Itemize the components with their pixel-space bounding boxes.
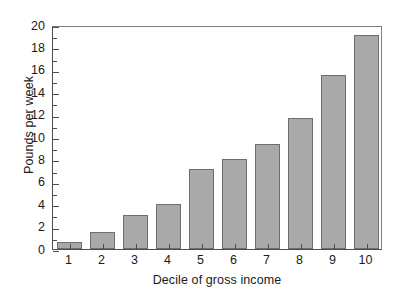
y-tick-major xyxy=(53,251,59,252)
bar xyxy=(288,118,314,249)
y-axis-tick-labels: 02468101214161820 xyxy=(21,0,45,297)
y-tick-minor xyxy=(53,217,57,218)
bar xyxy=(222,159,248,249)
y-tick-major xyxy=(53,184,59,185)
bar xyxy=(255,144,281,249)
y-tick-major xyxy=(53,229,59,230)
y-tick-major xyxy=(53,49,59,50)
y-tick-minor xyxy=(53,83,57,84)
plot-area xyxy=(52,26,382,250)
y-tick-label: 2 xyxy=(23,221,45,234)
x-tick xyxy=(334,244,335,249)
y-tick-major xyxy=(53,161,59,162)
y-tick-major xyxy=(53,117,59,118)
x-tick xyxy=(268,244,269,249)
x-tick xyxy=(301,244,302,249)
x-axis-tick-labels: 12345678910 xyxy=(52,254,382,272)
y-tick-label: 16 xyxy=(23,64,45,77)
x-tick xyxy=(202,244,203,249)
x-tick xyxy=(136,244,137,249)
y-tick-major xyxy=(53,94,59,95)
y-tick-major xyxy=(53,72,59,73)
x-axis-title: Decile of gross income xyxy=(52,273,382,287)
y-tick-label: 4 xyxy=(23,199,45,212)
bar-chart-figure: Pounds per week 02468101214161820 123456… xyxy=(0,0,402,297)
y-tick-label: 14 xyxy=(23,87,45,100)
bar xyxy=(354,35,380,249)
y-tick-major xyxy=(53,206,59,207)
y-tick-label: 12 xyxy=(23,109,45,122)
x-tick xyxy=(169,244,170,249)
y-tick-label: 6 xyxy=(23,176,45,189)
y-tick-minor xyxy=(53,173,57,174)
y-tick-minor xyxy=(53,150,57,151)
x-tick-label: 10 xyxy=(346,254,386,267)
x-tick xyxy=(367,244,368,249)
bar xyxy=(189,169,215,249)
y-tick-minor xyxy=(53,61,57,62)
bar xyxy=(156,204,182,249)
y-tick-major xyxy=(53,27,59,28)
x-tick xyxy=(235,244,236,249)
y-tick-major xyxy=(53,139,59,140)
y-tick-minor xyxy=(53,195,57,196)
x-tick xyxy=(70,244,71,249)
y-tick-label: 20 xyxy=(23,20,45,33)
y-tick-label: 10 xyxy=(23,132,45,145)
y-tick-label: 8 xyxy=(23,154,45,167)
bar xyxy=(321,75,347,249)
x-tick xyxy=(103,244,104,249)
y-tick-minor xyxy=(53,105,57,106)
y-tick-label: 0 xyxy=(23,244,45,257)
y-tick-minor xyxy=(53,128,57,129)
y-tick-label: 18 xyxy=(23,42,45,55)
y-tick-minor xyxy=(53,240,57,241)
y-tick-minor xyxy=(53,38,57,39)
